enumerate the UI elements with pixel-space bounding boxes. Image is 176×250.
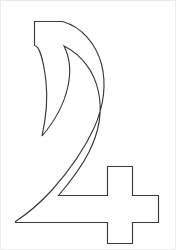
glyph-layer <box>0 0 176 250</box>
four-with-cross-outline <box>16 22 159 244</box>
image-canvas <box>0 0 176 250</box>
